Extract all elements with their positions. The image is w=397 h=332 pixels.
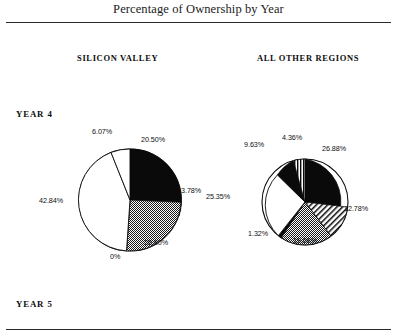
- column-header-all-other-regions: ALL OTHER REGIONS: [257, 53, 359, 63]
- pie-label-ao-1278: 12.78%: [344, 204, 368, 213]
- page-title: Percentage of Ownership by Year: [0, 2, 397, 17]
- pie-label-sv-0: 0%: [110, 252, 120, 261]
- pie-chart-all-other-regions-year-4: 4.36% 9.63% 26.88% 12.78% 19.68% 1.32% 2…: [255, 152, 355, 252]
- pie-label-ao-1968: 19.68%: [293, 236, 317, 245]
- pie-label-ao-132: 1.32%: [248, 229, 268, 238]
- pie-label-sv-4284: 42.84%: [39, 196, 63, 205]
- pie-label-ao-963: 9.63%: [244, 140, 264, 149]
- column-header-silicon-valley: SILICON VALLEY: [77, 53, 158, 63]
- pie-label-sv-378: 3.78%: [181, 186, 201, 195]
- pie-label-ao-2535: 25.35%: [206, 192, 230, 201]
- pie-chart-silicon-valley-year-4: 6.07% 20.50% 3.78% 26.80% 0% 42.84%: [70, 140, 190, 260]
- row-label-year-4: YEAR 4: [16, 109, 53, 119]
- row-label-year-5: YEAR 5: [16, 299, 53, 309]
- pie-label-sv-2680: 26.80%: [144, 238, 168, 247]
- pie-svg-silicon-valley: [70, 140, 190, 260]
- pie-label-sv-2050: 20.50%: [141, 135, 165, 144]
- pie-label-sv-607: 6.07%: [92, 127, 112, 136]
- bottom-divider: [6, 329, 391, 330]
- pie-label-ao-436: 4.36%: [282, 133, 302, 142]
- pie-label-ao-2688: 26.88%: [322, 144, 346, 153]
- title-divider: [6, 22, 391, 23]
